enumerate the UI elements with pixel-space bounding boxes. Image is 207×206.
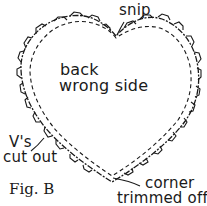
- wrong-side-label: wrong side: [59, 77, 148, 94]
- corner-leader-line: [113, 178, 140, 186]
- cut-out-label: cut out: [3, 150, 57, 164]
- trimmed-off-label: trimmed off: [117, 191, 207, 205]
- corner-label: corner: [145, 176, 194, 190]
- vs-label: V's: [9, 135, 32, 149]
- figure-caption: Fig. B: [9, 180, 54, 198]
- heart-diagram: snip back wrong side V's cut out corner …: [0, 0, 207, 206]
- snip-label: snip: [119, 3, 151, 17]
